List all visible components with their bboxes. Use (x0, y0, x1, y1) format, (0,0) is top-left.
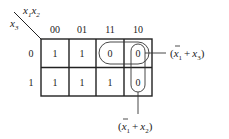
svg-text:(x1+x2): (x1+x2) (118, 120, 153, 135)
cell-value: 1 (53, 48, 58, 59)
row-header: 1 (29, 77, 34, 88)
row-header: 0 (29, 48, 34, 59)
col-header: 00 (50, 24, 60, 35)
cell-value: 1 (53, 77, 58, 88)
svg-text:(x1+x3): (x1+x3) (170, 47, 205, 62)
karnaugh-map-diagram: x1x2 x3 00 01 11 10 0 1 1 1 0 0 1 1 1 0 … (0, 0, 229, 139)
cell-value: 1 (108, 77, 113, 88)
cell-value: 0 (136, 48, 141, 59)
row-variable-label: x3 (9, 17, 19, 32)
col-variable-label: x1x2 (22, 4, 40, 19)
cell-value: 0 (108, 48, 113, 59)
col-header: 10 (133, 24, 143, 35)
col-header: 11 (105, 24, 115, 35)
cell-value: 1 (80, 48, 85, 59)
cell-value: 1 (80, 77, 85, 88)
col-header: 01 (77, 24, 87, 35)
group-label-1: (x1+x3) (170, 46, 205, 62)
group-label-2: (x1+x2) (118, 119, 153, 135)
cell-value: 0 (136, 77, 141, 88)
